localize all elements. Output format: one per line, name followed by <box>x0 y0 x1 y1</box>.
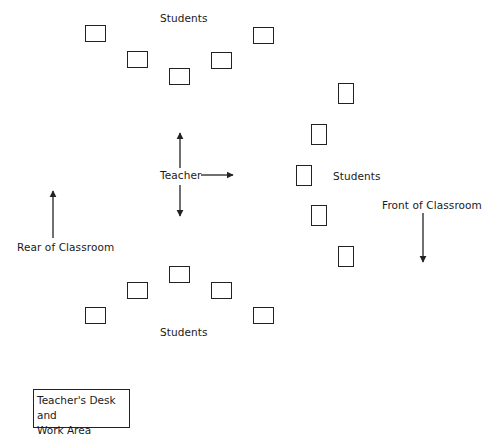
arrows-layer <box>0 0 489 438</box>
teacher-desk-line2: Work Area <box>37 423 126 438</box>
student-desk-right-3 <box>296 165 312 186</box>
students-top-label: Students <box>160 12 208 24</box>
teacher-desk-line1: Teacher's Desk and <box>37 393 126 423</box>
student-desk-top-3 <box>169 68 190 85</box>
students-bottom-label: Students <box>160 326 208 338</box>
front-of-classroom-label: Front of Classroom <box>382 199 482 211</box>
student-desk-bottom-4 <box>211 282 232 299</box>
student-desk-top-5 <box>253 27 274 44</box>
student-desk-right-2 <box>311 124 327 145</box>
student-desk-top-4 <box>211 52 232 69</box>
classroom-diagram: Students Students Students Teacher Front… <box>0 0 489 438</box>
rear-of-classroom-label: Rear of Classroom <box>17 241 114 253</box>
student-desk-right-4 <box>311 205 327 226</box>
student-desk-top-2 <box>127 51 148 68</box>
student-desk-bottom-2 <box>127 282 148 299</box>
student-desk-bottom-5 <box>253 307 274 324</box>
student-desk-top-1 <box>85 25 106 42</box>
teacher-desk-box: Teacher's Desk and Work Area <box>33 389 130 428</box>
students-right-label: Students <box>333 170 381 182</box>
student-desk-right-5 <box>338 246 354 267</box>
student-desk-bottom-1 <box>85 307 106 324</box>
student-desk-right-1 <box>338 83 354 104</box>
student-desk-bottom-3 <box>169 266 190 283</box>
teacher-label: Teacher <box>160 169 201 181</box>
